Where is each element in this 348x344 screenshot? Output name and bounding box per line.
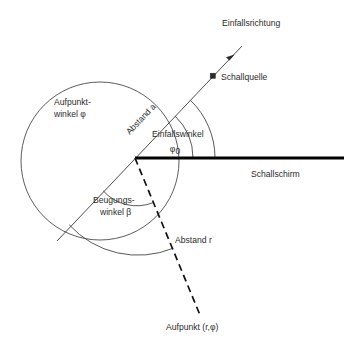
sound-source-marker-icon xyxy=(210,73,215,78)
label-field-point-angle-line2: winkel φ xyxy=(53,109,86,119)
acoustics-diffraction-diagram: Einfallsrichtung Schallquelle Abstand a … xyxy=(0,0,348,344)
label-incidence-direction: Einfallsrichtung xyxy=(222,18,280,28)
label-distance-r: Abstand r xyxy=(175,235,212,245)
label-sound-source: Schallquelle xyxy=(221,72,268,82)
label-field-point: Aufpunkt (r,φ) xyxy=(166,322,219,332)
label-incidence-angle: Einfallswinkel xyxy=(152,129,204,139)
incidence-direction-arrow-icon xyxy=(226,55,235,61)
label-field-point-angle-line1: Aufpunkt- xyxy=(54,97,91,107)
incidence-angle-subscript: 0 xyxy=(175,146,180,156)
diffraction-angle-arc-outer xyxy=(69,225,173,255)
label-diffraction-angle-line2: winkel β xyxy=(99,207,131,217)
label-diffraction-angle-line1: Beugungs- xyxy=(93,195,135,205)
label-sound-barrier: Schallschirm xyxy=(251,169,300,179)
label-incidence-angle-symbol: φ0 xyxy=(170,144,181,156)
diagram-canvas: Einfallsrichtung Schallquelle Abstand a … xyxy=(0,0,348,344)
